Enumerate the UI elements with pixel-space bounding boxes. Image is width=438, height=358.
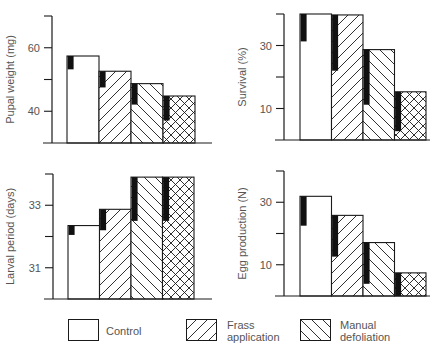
error-bar-frass-application (100, 71, 106, 87)
legend-label-manual-defoliation: Manual defoliation (340, 319, 390, 343)
y-tick-label: 60 (28, 42, 40, 54)
legend-swatch-manual-defoliation (300, 319, 331, 341)
y-axis-label: Pupal weight (mg) (4, 35, 16, 124)
y-axis-label: Survival (%) (236, 47, 248, 106)
panel-egg-production: 1030Egg production (N) (236, 171, 430, 296)
y-axis-label: Larval period (days) (4, 188, 16, 285)
panel-survival: 1030Survival (%) (236, 14, 430, 140)
error-bar-manual-defoliation (364, 243, 370, 284)
legend-label-control: Control (106, 325, 141, 337)
error-bar-frass-manual-defoliation (164, 96, 170, 120)
panel-larval-period: 3133Larval period (days) (4, 174, 212, 299)
y-tick-label: 33 (29, 199, 41, 211)
bar-control (68, 226, 100, 299)
error-bar-manual-defoliation (132, 177, 138, 221)
error-bar-control (301, 14, 307, 41)
error-bar-frass-manual-defoliation (395, 273, 401, 296)
error-bar-control (69, 226, 75, 235)
legend-swatch-control (68, 319, 99, 341)
error-bar-frass-manual-defoliation (395, 92, 401, 131)
y-axis-label: Egg production (N) (236, 187, 248, 279)
legend-swatch-frass (186, 319, 217, 341)
error-bar-frass-manual-defoliation (163, 177, 169, 221)
y-tick-label: 40 (28, 105, 40, 117)
error-bar-manual-defoliation (364, 50, 370, 105)
error-bar-manual-defoliation (132, 84, 138, 105)
panel-pupal-weight: 4060Pupal weight (mg) (4, 16, 212, 143)
legend: Control Frass application Manual defolia… (0, 305, 438, 358)
error-bar-control (301, 196, 307, 225)
error-bar-frass-application (100, 209, 106, 230)
y-tick-label: 10 (260, 259, 272, 271)
y-tick-label: 31 (29, 262, 41, 274)
error-bar-frass-application (332, 15, 338, 71)
y-tick-label: 10 (260, 103, 272, 115)
y-tick-label: 30 (260, 40, 272, 52)
y-tick-label: 30 (260, 196, 272, 208)
error-bar-frass-application (332, 215, 338, 256)
error-bar-control (68, 56, 74, 69)
legend-label-frass: Frass application (227, 319, 280, 343)
